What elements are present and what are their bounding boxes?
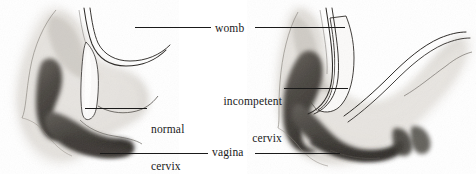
figure-cervix-comparison: womb vagina normal cervix incompetent ce…	[0, 0, 476, 174]
label-incompetent-cervix: incompetent cervix	[206, 70, 282, 169]
label-normal-cervix-line1: normal	[151, 123, 184, 135]
label-normal-cervix-line2: cervix	[151, 160, 184, 172]
right-panel-artwork	[268, 4, 476, 170]
label-incompetent-cervix-line1: incompetent	[206, 95, 282, 107]
label-normal-cervix: normal cervix	[151, 98, 184, 174]
left-panel-artwork	[14, 4, 170, 170]
label-incompetent-cervix-line2: cervix	[206, 132, 282, 144]
label-womb: womb	[215, 22, 244, 34]
